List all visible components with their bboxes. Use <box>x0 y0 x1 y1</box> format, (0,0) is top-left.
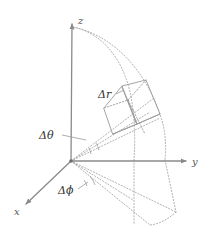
diagram-canvas: z y x Δr Δθ Δϕ <box>0 0 209 233</box>
y-axis-label: y <box>191 156 198 167</box>
origin-point <box>69 159 73 163</box>
arc-meridian-right <box>163 124 166 160</box>
spherical-coordinates-diagram: z y x Δr Δθ Δϕ <box>0 0 209 233</box>
volume-element-box <box>104 80 160 134</box>
delta-theta-leader <box>62 135 86 140</box>
xy-projection-wedge <box>71 160 176 225</box>
theta-ray-mid <box>71 112 150 161</box>
delta-phi-angle-arc <box>84 176 95 186</box>
delta-theta-label: Δθ <box>38 129 54 142</box>
projection-ray-b <box>71 161 150 225</box>
arc-outer <box>73 27 163 124</box>
x-axis-label: x <box>14 206 20 217</box>
theta-rays <box>71 98 160 161</box>
theta-ray-upper <box>71 98 154 161</box>
x-axis-line <box>26 161 71 204</box>
projection-drop-outer <box>165 160 176 212</box>
projection-ray-a <box>71 161 176 212</box>
z-axis-label: z <box>77 15 84 26</box>
delta-phi-label: Δϕ <box>57 184 74 197</box>
delta-r-label: Δr <box>97 88 112 101</box>
projection-inner-chord <box>71 161 133 200</box>
z-axis-line <box>71 24 72 161</box>
projection-outer-arc <box>150 212 176 225</box>
